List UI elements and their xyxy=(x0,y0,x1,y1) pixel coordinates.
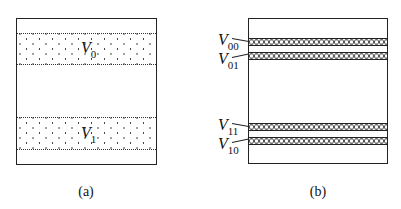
band-v0-label: V0 xyxy=(81,40,96,62)
label-v11-letter: V xyxy=(218,116,228,133)
label-v01-subscript: 01 xyxy=(228,59,239,71)
band-v11 xyxy=(249,123,387,131)
band-v1: V1 xyxy=(17,117,156,150)
label-v10-letter: V xyxy=(218,135,228,152)
panel-a-caption: (a) xyxy=(66,185,106,199)
label-v01-letter: V xyxy=(218,50,228,67)
label-v01: V01 xyxy=(218,51,239,73)
panel-b-caption: (b) xyxy=(298,185,338,199)
band-v1-label-subscript: 1 xyxy=(91,133,97,145)
band-v10 xyxy=(249,137,387,145)
label-v10: V10 xyxy=(218,136,239,158)
panel-a-box: V0 V1 xyxy=(16,18,157,165)
label-v10-subscript: 10 xyxy=(228,144,239,156)
band-v0-label-letter: V xyxy=(81,39,91,56)
band-v0: V0 xyxy=(17,33,156,65)
band-v01 xyxy=(249,52,387,60)
band-v1-label-letter: V xyxy=(81,124,91,141)
panel-b-box xyxy=(248,18,388,164)
label-v00-letter: V xyxy=(218,31,228,48)
band-v1-label: V1 xyxy=(81,125,96,147)
band-v0-label-subscript: 0 xyxy=(91,48,97,60)
band-v00 xyxy=(249,38,387,46)
